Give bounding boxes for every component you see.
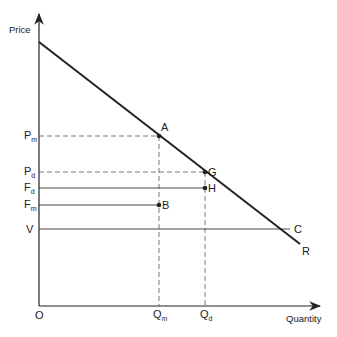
point-a	[157, 134, 162, 139]
label-c: C	[294, 223, 302, 235]
point-b	[157, 203, 162, 208]
label-qd: Qd	[200, 308, 213, 322]
price-quantity-diagram: A G H B C R Pm Pd Fd Fm V O Qm Qd Price …	[0, 0, 337, 337]
label-origin: O	[35, 309, 44, 321]
label-qm: Qm	[153, 308, 168, 322]
label-g: G	[208, 166, 217, 178]
point-g	[203, 170, 208, 175]
label-fm: Fm	[24, 198, 37, 212]
label-pd: Pd	[24, 165, 35, 179]
curve-r	[39, 42, 300, 244]
y-axis-title: Price	[9, 24, 31, 35]
label-fd: Fd	[24, 181, 35, 195]
label-b: B	[162, 199, 169, 211]
label-h: H	[208, 182, 216, 194]
point-h	[203, 186, 208, 191]
label-r: R	[302, 245, 310, 257]
label-v: V	[26, 223, 34, 235]
x-axis-title: Quantity	[286, 313, 322, 324]
label-a: A	[161, 121, 169, 133]
label-pm: Pm	[24, 129, 37, 143]
